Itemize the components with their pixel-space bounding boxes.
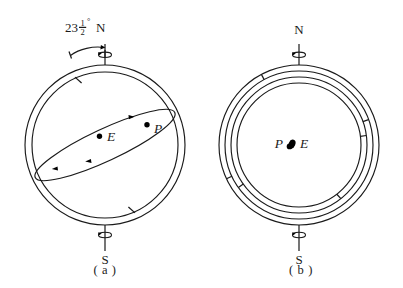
panel-b-body-blob <box>287 138 297 149</box>
panel-b-ring-tick-1 <box>261 74 264 79</box>
panel-b-ring-2 <box>225 71 373 219</box>
panel-a-tilt-whole-number: 23 <box>65 20 78 35</box>
panel-a-ring-tick-top <box>75 77 82 83</box>
panel-a-orbit-arrow-left <box>52 167 58 171</box>
panel-b-north-label: N <box>294 22 304 37</box>
panel-b: N S P E ( b ) <box>219 22 379 277</box>
panel-b-ring-tick-2 <box>227 176 232 179</box>
panel-a-tilt-numerator: 1 <box>80 18 84 28</box>
panel-a-planet-dot <box>144 122 149 127</box>
panel-b-ring-tick-6 <box>337 194 341 198</box>
panel-a-tilt-degree-symbol: ° <box>87 16 90 26</box>
panel-b-ring-tick-5 <box>360 136 366 137</box>
panel-a-caption: ( a ) <box>93 263 116 277</box>
panel-a-earth-label: E <box>106 129 116 144</box>
panel-a-earth-dot <box>97 134 102 139</box>
panel-b-ring-4 <box>237 83 361 207</box>
panel-a-outer-ring <box>25 65 185 225</box>
figure-root: 23 1 ° 2 N S E P ( a ) <box>0 0 403 288</box>
panel-b-planet-label: P <box>274 136 283 151</box>
panel-a: 23 1 ° 2 N S E P ( a ) <box>25 16 185 278</box>
panel-b-ring-tick-4 <box>238 184 243 188</box>
panel-a-planet-label: P <box>153 121 162 136</box>
panel-a-north-label: N <box>96 20 106 35</box>
figure-canvas: 23 1 ° 2 N S E P ( a ) <box>0 0 403 288</box>
panel-b-ring-3 <box>231 77 367 213</box>
panel-a-inner-ring <box>32 72 178 218</box>
panel-a-tilt-denominator: 2 <box>80 27 84 37</box>
panel-a-orbit-arrow-lower <box>85 159 91 163</box>
panel-a-orbit-ellipse <box>28 98 181 192</box>
panel-b-caption: ( b ) <box>289 263 313 277</box>
panel-b-ring-1 <box>219 65 379 225</box>
panel-b-earth-label: E <box>299 136 309 151</box>
panel-a-ring-tick-bottom <box>128 207 135 213</box>
panel-b-ring-tick-3 <box>363 120 369 122</box>
